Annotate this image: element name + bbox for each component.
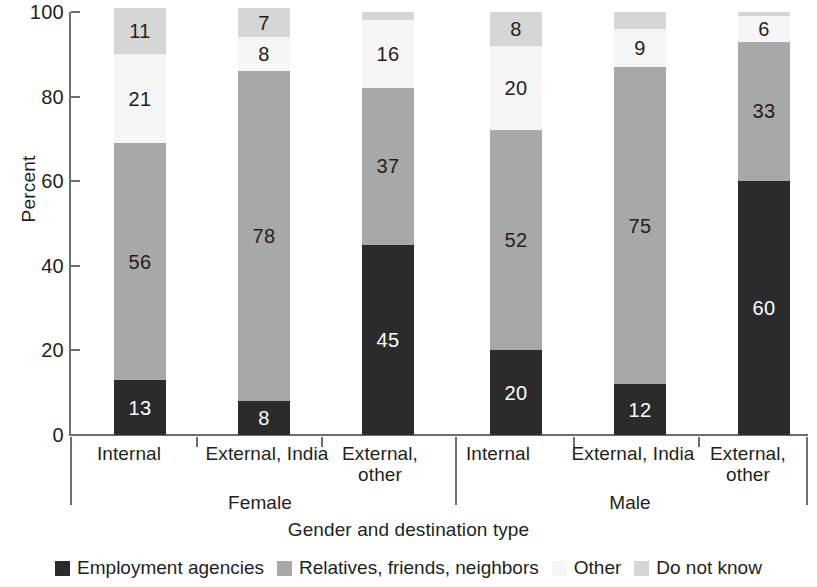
bar-segment-female-internal-3[interactable]: 11 (114, 8, 166, 55)
bar-segment-male-external-other-1[interactable]: 33 (738, 42, 790, 182)
y-axis-tick-label: 60 (0, 170, 64, 193)
group-divider-right (806, 437, 808, 505)
bar-segment-male-external-other-2[interactable]: 6 (738, 16, 790, 41)
y-axis-tick-label: 0 (0, 424, 64, 447)
bar-value-label: 8 (258, 44, 269, 64)
group-label-male: Male (560, 492, 700, 514)
bar-value-label: 21 (129, 89, 152, 109)
label-text: Male (609, 492, 651, 513)
bar-male-internal[interactable]: 2052208 (490, 12, 542, 435)
bar-segment-male-external-other-3[interactable] (738, 12, 790, 16)
label-text-line1: External, (342, 443, 418, 464)
bar-female-external-other[interactable]: 453716 (362, 12, 414, 435)
legend-swatch-icon (277, 561, 292, 576)
bar-value-label: 33 (753, 101, 776, 121)
y-axis-tick-label: 20 (0, 339, 64, 362)
bar-segment-female-internal-1[interactable]: 56 (114, 143, 166, 380)
label-text-line2: other (358, 464, 402, 485)
label-text: External, India (572, 443, 695, 464)
y-axis-tick-label: 100 (0, 1, 64, 24)
x-category-label-male-internal: Internal (428, 443, 568, 464)
bar-segment-male-internal-3[interactable]: 8 (490, 12, 542, 46)
bar-segment-male-internal-2[interactable]: 20 (490, 46, 542, 131)
legend-item-2[interactable]: Other (552, 557, 622, 579)
bar-value-label: 20 (505, 383, 528, 403)
title-text: Gender and destination type (288, 519, 529, 540)
legend-item-3[interactable]: Do not know (634, 557, 762, 579)
bar-segment-female-internal-2[interactable]: 21 (114, 54, 166, 143)
legend-swatch-icon (552, 561, 567, 576)
legend-label: Employment agencies (77, 557, 264, 579)
stacked-bar-chart: Percent 100806040200 1356211187887453716… (0, 0, 817, 587)
legend-item-0[interactable]: Employment agencies (55, 557, 264, 579)
bar-male-external-india[interactable]: 12759 (614, 12, 666, 435)
chart-legend: Employment agenciesRelatives, friends, n… (0, 557, 817, 579)
label-text: Internal (466, 443, 530, 464)
bar-segment-female-internal-0[interactable]: 13 (114, 380, 166, 435)
bar-value-label: 6 (758, 19, 769, 39)
bar-value-label: 12 (629, 400, 652, 420)
label-text-line2: other (726, 464, 770, 485)
bar-segment-male-external-india-1[interactable]: 75 (614, 67, 666, 384)
bar-value-label: 45 (377, 330, 400, 350)
legend-item-1[interactable]: Relatives, friends, neighbors (277, 557, 539, 579)
bar-value-label: 52 (505, 230, 528, 250)
bar-value-label: 8 (258, 408, 269, 428)
bar-segment-female-external-other-3[interactable] (362, 12, 414, 20)
group-label-female: Female (190, 492, 330, 514)
y-axis-tick-label: 40 (0, 254, 64, 277)
bar-segment-female-external-india-0[interactable]: 8 (238, 401, 290, 435)
x-axis-title: Gender and destination type (0, 519, 817, 541)
bar-segment-female-external-india-1[interactable]: 78 (238, 71, 290, 401)
bar-segment-female-external-other-1[interactable]: 37 (362, 88, 414, 245)
plot-area: 135621118788745371620522081275960336 (70, 12, 808, 435)
bar-value-label: 16 (377, 44, 400, 64)
bar-female-internal[interactable]: 13562111 (114, 8, 166, 435)
legend-swatch-icon (55, 561, 70, 576)
bar-value-label: 11 (129, 21, 150, 41)
legend-label: Relatives, friends, neighbors (299, 557, 539, 579)
bar-female-external-india[interactable]: 87887 (238, 8, 290, 435)
bar-value-label: 75 (629, 216, 652, 236)
label-text: Internal (97, 443, 161, 464)
x-category-label-male-external-other: External, other (678, 443, 817, 486)
bar-value-label: 8 (510, 19, 521, 39)
bar-value-label: 7 (258, 13, 269, 33)
bar-segment-male-external-india-0[interactable]: 12 (614, 384, 666, 435)
bar-value-label: 13 (129, 398, 152, 418)
bar-segment-male-external-india-3[interactable] (614, 12, 666, 29)
bar-segment-male-internal-1[interactable]: 52 (490, 130, 542, 350)
bar-segment-female-external-india-2[interactable]: 8 (238, 37, 290, 71)
bar-value-label: 56 (129, 252, 152, 272)
bar-value-label: 60 (753, 298, 776, 318)
label-text-line1: External, (710, 443, 786, 464)
bar-segment-male-external-other-0[interactable]: 60 (738, 181, 790, 435)
bar-value-label: 78 (253, 226, 276, 246)
group-divider-center (455, 437, 457, 505)
bar-segment-female-external-india-3[interactable]: 7 (238, 8, 290, 38)
bar-segment-female-external-other-0[interactable]: 45 (362, 245, 414, 435)
bar-segment-male-internal-0[interactable]: 20 (490, 350, 542, 435)
bar-male-external-other[interactable]: 60336 (738, 12, 790, 435)
bar-segment-female-external-other-2[interactable]: 16 (362, 20, 414, 88)
legend-label: Other (574, 557, 622, 579)
group-divider-left (70, 437, 72, 505)
legend-swatch-icon (634, 561, 649, 576)
bar-value-label: 20 (505, 78, 528, 98)
bar-value-label: 37 (377, 156, 400, 176)
y-axis-tick-label: 80 (0, 85, 64, 108)
label-text: Female (228, 492, 292, 513)
x-category-label-female-internal: Internal (59, 443, 199, 464)
bar-segment-male-external-india-2[interactable]: 9 (614, 29, 666, 67)
bar-value-label: 9 (634, 38, 645, 58)
legend-label: Do not know (656, 557, 762, 579)
